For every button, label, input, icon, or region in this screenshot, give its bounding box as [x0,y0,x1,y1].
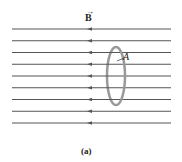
field-arrow-icon [87,39,92,43]
field-arrow-icon [87,74,92,78]
field-arrow-icon [87,86,92,90]
vector-arrow: → [86,7,94,16]
field-arrow-icon [87,121,92,125]
field-arrow-icon [87,51,92,55]
field-label-b: → B [85,12,92,23]
field-arrow-icon [87,27,92,31]
field-arrow-icon [87,109,92,113]
area-label-a: A [123,51,129,62]
field-arrow-icon [87,62,92,66]
field-diagram [0,0,182,162]
figure-caption: (a) [81,146,92,156]
field-arrow-icon [87,98,92,102]
